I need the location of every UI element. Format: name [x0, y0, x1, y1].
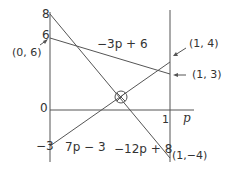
label-7p-minus3: 7p − 3: [65, 141, 106, 153]
point-label-1-3: (1, 3): [192, 69, 222, 80]
line-neg12p-plus8: [50, 14, 170, 158]
point-label-1-neg4: (1,−4): [172, 150, 207, 161]
point-label-0-6: (0, 6): [12, 47, 42, 58]
label-neg12p-plus8: −12p + 8: [114, 143, 172, 155]
line-7p-minus3: [50, 62, 170, 146]
tick-y-neg3: −3: [36, 140, 54, 152]
point-label-1-4: (1, 4): [189, 38, 219, 49]
tick-y-6: 6: [42, 29, 50, 41]
tick-y-0: 0: [40, 102, 48, 114]
diagram: 8 6 0 −3 1 p −3p + 6 7p − 3 −12p + 8 (0,…: [0, 0, 235, 172]
tick-y-8: 8: [42, 8, 50, 20]
label-neg3p-plus6: −3p + 6: [97, 38, 148, 50]
x-axis-label: p: [183, 112, 191, 124]
intersection-marker-icon: [115, 91, 127, 103]
tick-x-1: 1: [162, 114, 169, 125]
arrowhead-1-3-icon: [173, 73, 178, 77]
